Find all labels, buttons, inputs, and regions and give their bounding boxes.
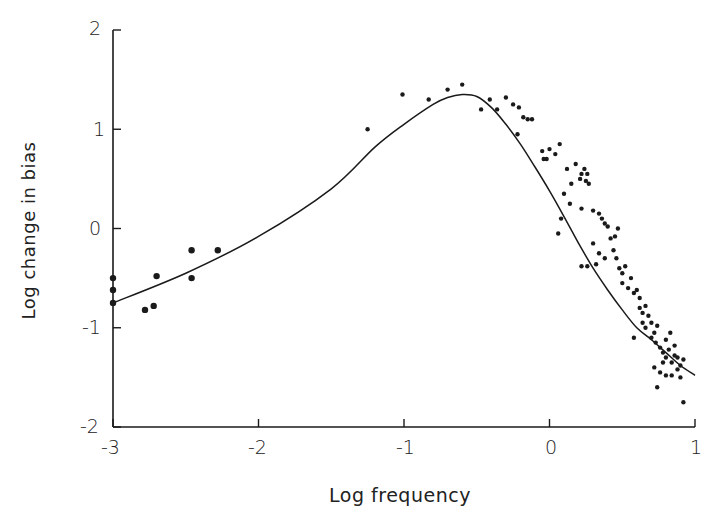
data-point [623, 264, 627, 268]
data-point [110, 287, 116, 293]
data-point [400, 92, 404, 96]
data-point [565, 167, 569, 171]
data-point [568, 202, 572, 206]
data-point [678, 375, 682, 379]
data-point [530, 117, 534, 121]
data-point [559, 216, 563, 220]
data-point [600, 216, 604, 220]
data-point [678, 363, 682, 367]
data-point [515, 132, 519, 136]
data-point [579, 172, 583, 176]
data-point [670, 373, 674, 377]
data-point [664, 373, 668, 377]
data-point [142, 307, 148, 313]
chart-area: 2 1 0 -1 -2 -3 -2 -1 0 1 Log change in b… [0, 0, 720, 520]
data-point [544, 157, 548, 161]
data-point [488, 97, 492, 101]
data-point [521, 115, 525, 119]
data-point [675, 367, 679, 371]
data-point [611, 248, 615, 252]
data-point [661, 350, 665, 354]
y-tick-label: -2 [80, 417, 99, 436]
data-point [574, 162, 578, 166]
data-point [635, 288, 639, 292]
data-point [658, 345, 662, 349]
data-point [585, 264, 589, 268]
y-tick-label: 0 [89, 219, 101, 238]
data-point [558, 142, 562, 146]
data-point [569, 182, 573, 186]
data-point [188, 275, 194, 281]
data-point [655, 324, 659, 328]
data-point [511, 102, 515, 106]
data-point [652, 331, 656, 335]
data-point [675, 355, 679, 359]
data-point [591, 241, 595, 245]
data-point [643, 304, 647, 308]
data-point [617, 266, 621, 270]
data-point [597, 211, 601, 215]
data-point [638, 306, 642, 310]
data-point [620, 271, 624, 275]
data-point [616, 226, 620, 230]
data-point [215, 247, 221, 253]
x-tick-label: -1 [396, 438, 415, 457]
data-point [658, 370, 662, 374]
data-point [504, 95, 508, 99]
data-point [591, 208, 595, 212]
data-point [655, 385, 659, 389]
data-point [646, 314, 650, 318]
data-point [151, 303, 157, 309]
data-point [526, 117, 530, 121]
data-point [643, 326, 647, 330]
x-tick-label: 0 [545, 438, 557, 457]
data-point [632, 336, 636, 340]
data-point [427, 97, 431, 101]
data-point [668, 331, 672, 335]
data-point [640, 321, 644, 325]
data-point [594, 262, 598, 266]
data-point [110, 275, 116, 281]
data-point [479, 107, 483, 111]
data-point [608, 236, 612, 240]
data-points [110, 82, 686, 404]
data-point [672, 343, 676, 347]
data-point [664, 338, 668, 342]
y-axis-label: Log change in bias [18, 131, 39, 331]
x-tick-label: 1 [690, 438, 702, 457]
data-point [649, 336, 653, 340]
x-axis-label: Log frequency [300, 484, 500, 506]
data-point [620, 281, 624, 285]
data-point [556, 231, 560, 235]
data-point [606, 224, 610, 228]
x-tick-label: -3 [101, 438, 120, 457]
data-point [654, 340, 658, 344]
data-point [188, 247, 194, 253]
data-point [664, 355, 668, 359]
x-tick-label: -2 [248, 438, 267, 457]
data-point [587, 182, 591, 186]
data-point [547, 147, 551, 151]
data-point [445, 87, 449, 91]
fitted-curve [113, 94, 695, 375]
data-point [579, 206, 583, 210]
data-point [626, 286, 630, 290]
data-point [562, 192, 566, 196]
y-tick-label: -1 [82, 318, 101, 337]
data-point [460, 82, 464, 86]
y-tick-label: 1 [93, 120, 105, 139]
fitted-curve-line [113, 94, 695, 375]
data-point [640, 311, 644, 315]
data-point [365, 127, 369, 131]
y-tick-label: 2 [89, 19, 101, 38]
data-point [153, 273, 159, 279]
data-point [661, 360, 665, 364]
data-point [110, 300, 116, 306]
data-point [579, 264, 583, 268]
data-point [613, 234, 617, 238]
data-point [638, 296, 642, 300]
data-point [681, 400, 685, 404]
data-point [667, 347, 671, 351]
data-point [540, 149, 544, 153]
data-point [585, 172, 589, 176]
